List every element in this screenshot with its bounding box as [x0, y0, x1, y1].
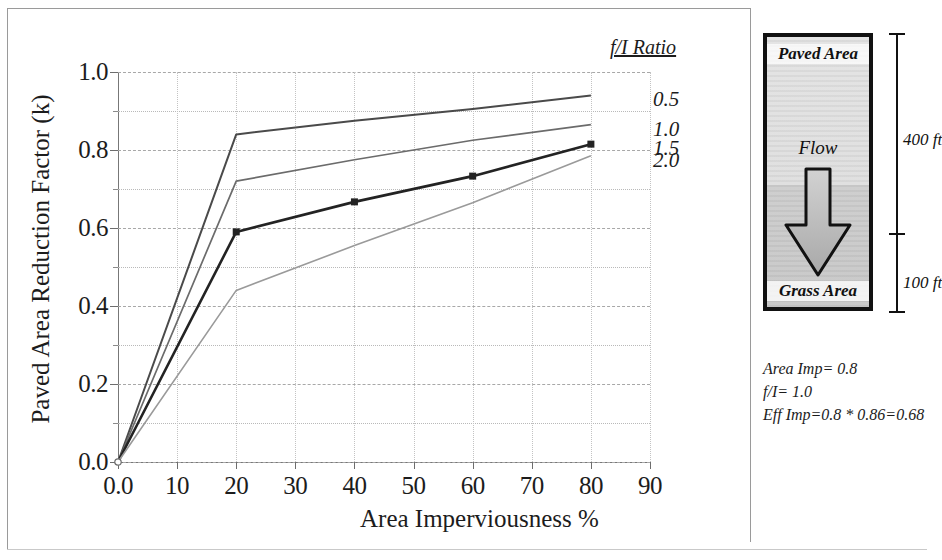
x-tick-label: 0.0 [103, 472, 133, 500]
x-tick-label: 10 [165, 472, 189, 500]
legend: f/I Ratio [600, 36, 712, 59]
x-tick [532, 462, 533, 469]
gridline-horizontal [118, 462, 650, 463]
page-vertical-divider [750, 8, 751, 542]
series-lines [118, 72, 650, 462]
x-tick [177, 462, 178, 469]
y-tick [110, 306, 118, 307]
y-axis-title: Paved Area Reduction Factor (k) [27, 59, 55, 459]
dimension-cap-top [889, 33, 905, 35]
flow-arrow-icon [782, 167, 854, 279]
series-line [118, 125, 591, 462]
series-line [118, 144, 591, 462]
y-tick-label: 0.2 [78, 370, 108, 398]
plot-area [118, 72, 650, 462]
x-tick-label: 50 [402, 472, 426, 500]
y-tick [110, 384, 118, 385]
legend-entry-2-0[interactable]: 2.0 [653, 147, 679, 172]
x-tick [473, 462, 474, 469]
dimension-label-400ft: 400 ft [903, 130, 942, 150]
data-point-marker [587, 141, 594, 148]
dimension-cap-middle [889, 233, 905, 235]
dimension-cap-bottom [889, 311, 905, 313]
x-tick [295, 462, 296, 469]
y-tick-label: 0.8 [78, 136, 108, 164]
grass-area-label: Grass Area [767, 281, 869, 301]
x-tick [354, 462, 355, 469]
x-tick [414, 462, 415, 469]
diagram-notes: Area Imp= 0.8f/I= 1.0Eff Imp=0.8 * 0.86=… [763, 357, 924, 427]
x-tick-label: 30 [283, 472, 307, 500]
y-tick-label: 1.0 [78, 58, 108, 86]
y-tick [110, 72, 118, 73]
x-tick-label: 60 [461, 472, 485, 500]
x-axis-tick-labels: 0.0102030405060708090 [118, 472, 651, 506]
y-tick [110, 228, 118, 229]
x-tick-label: 70 [520, 472, 544, 500]
gridline-vertical [650, 72, 651, 462]
data-point-marker [469, 173, 476, 180]
x-tick-label: 90 [638, 472, 662, 500]
x-tick-label: 20 [224, 472, 248, 500]
x-tick-label: 80 [579, 472, 603, 500]
diagram-note-line: Eff Imp=0.8 * 0.86=0.68 [763, 403, 924, 426]
legend-title: f/I Ratio [600, 36, 712, 59]
dimension-rule [896, 33, 898, 311]
y-tick [110, 150, 118, 151]
x-tick [236, 462, 237, 469]
x-tick [650, 462, 651, 469]
y-tick-label: 0.6 [78, 214, 108, 242]
site-diagram: Paved Area Flow Grass Area [763, 33, 873, 311]
y-tick-label: 0.4 [78, 292, 108, 320]
data-point-marker [351, 198, 358, 205]
diagram-note-line: Area Imp= 0.8 [763, 357, 924, 380]
x-tick [591, 462, 592, 469]
origin-marker [115, 459, 121, 465]
flow-label: Flow [767, 137, 869, 159]
x-tick-label: 40 [342, 472, 366, 500]
page-border-bottom [7, 549, 927, 550]
diagram-note-line: f/I= 1.0 [763, 380, 924, 403]
x-axis-title: Area Imperviousness % [360, 505, 720, 533]
paved-area-label: Paved Area [767, 44, 869, 64]
data-point-marker [233, 228, 240, 235]
dimension-label-100ft: 100 ft [903, 273, 942, 293]
legend-entry-0-5[interactable]: 0.5 [653, 87, 679, 112]
chart-figure: 0.00.20.40.60.81.0 0.0102030405060708090… [0, 0, 712, 545]
series-line [118, 95, 591, 462]
